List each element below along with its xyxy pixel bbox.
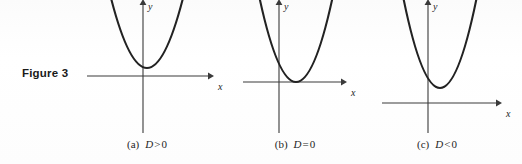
caption-c-value: 0 [451,138,457,150]
x-axis-c [382,100,502,107]
caption-b-tag: (b) [275,138,288,150]
panel-a: x y (a)D>0 [62,0,232,164]
y-axis-label-a: y [147,1,153,12]
figure-container: Figure 3 x y (a)D>0 [0,0,522,164]
caption-a-symbol: D [145,138,153,150]
x-axis-a [87,73,214,80]
parabola-c [401,0,479,88]
caption-c-symbol: D [435,138,443,150]
caption-b-symbol: D [294,138,302,150]
caption-a: (a)D>0 [62,138,232,150]
y-axis-c [425,0,432,133]
caption-c-relation: < [444,138,450,150]
caption-a-value: 0 [161,138,167,150]
caption-c: (c)D<0 [352,138,522,150]
y-axis-label-b: y [283,1,289,12]
caption-c-tag: (c) [417,138,429,150]
caption-b-relation: = [303,138,309,150]
caption-a-relation: > [154,138,160,150]
parabola-b [257,0,335,82]
panel-c: x y (c)D<0 [352,0,522,164]
x-axis-label-c: x [505,108,511,119]
y-axis-label-c: y [432,1,438,12]
parabola-a [108,0,186,68]
y-axis-b [276,0,283,133]
caption-b-value: 0 [310,138,316,150]
caption-a-tag: (a) [127,138,139,150]
